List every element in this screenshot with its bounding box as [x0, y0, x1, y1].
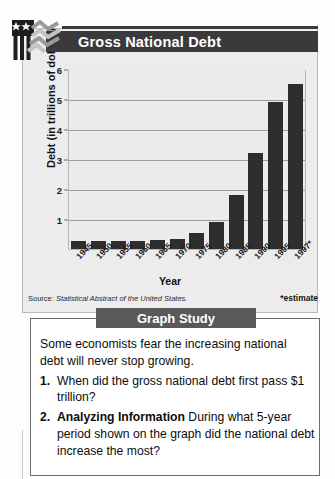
question-text: When did the gross national debt first p…	[57, 374, 304, 405]
flag-chart-logo-icon	[12, 20, 68, 63]
page-title: Gross National Debt	[78, 34, 221, 50]
y-axis-tick-label: 5	[44, 95, 62, 106]
source-prefix: Source:	[28, 294, 56, 303]
bar	[288, 84, 303, 249]
page-background: . . . Gross National Debt Debt (in trill…	[0, 0, 335, 479]
graph-study-banner: Graph Study	[96, 308, 256, 328]
estimate-note: *estimate	[280, 293, 318, 303]
question-item: 2.Analyzing Information During what 5-ye…	[57, 409, 315, 459]
question-list: 1.When did the gross national debt first…	[40, 373, 315, 460]
question-skill-label: Analyzing Information	[57, 410, 185, 424]
y-axis-tick-mark	[64, 190, 68, 191]
source-citation: Source: Statistical Abstract of the Unit…	[28, 294, 187, 303]
x-axis-label: Year	[22, 275, 318, 287]
chart-title-bar: Gross National Debt	[46, 31, 318, 52]
y-axis-tick-mark	[64, 70, 68, 71]
y-axis-tick-label: 3	[44, 155, 62, 166]
y-axis-tick-mark	[64, 100, 68, 101]
graph-study-body: Some economists fear the increasing nati…	[40, 336, 315, 460]
y-axis-tick-mark	[64, 130, 68, 131]
bar-series	[69, 70, 305, 249]
bar	[229, 195, 244, 249]
y-axis-tick-mark	[64, 160, 68, 161]
graph-study-intro: Some economists fear the increasing nati…	[40, 336, 292, 370]
bar	[248, 153, 263, 249]
y-axis-tick-mark	[64, 220, 68, 221]
question-item: 1.When did the gross national debt first…	[57, 373, 315, 407]
y-axis-tick-label: 4	[44, 125, 62, 136]
chart-plot-area: Debt (in trillions of dollars) 123456 19…	[22, 56, 318, 288]
source-title: Statistical Abstract of the United State…	[56, 294, 187, 303]
y-axis-tick-label: 2	[44, 185, 62, 196]
title-rule	[62, 26, 318, 29]
bar	[268, 102, 283, 249]
plot-frame	[68, 70, 306, 250]
scan-artifacts: . . .	[140, 4, 290, 14]
y-axis-tick-label: 1	[44, 215, 62, 226]
page-edge-divider	[22, 430, 23, 479]
y-axis-tick-label: 6	[44, 65, 62, 76]
graph-study-banner-label: Graph Study	[137, 311, 215, 326]
question-number: 1.	[40, 373, 50, 390]
question-number: 2.	[40, 409, 50, 426]
source-row: Source: Statistical Abstract of the Unit…	[28, 293, 318, 303]
